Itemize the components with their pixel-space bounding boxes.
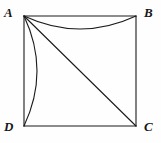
vertex-label-a: A [4,6,13,19]
vertex-label-c: C [144,120,153,133]
vertex-label-b: B [144,6,153,19]
arc-AD-path [24,16,37,126]
diagonal-AC-line [24,16,136,126]
vertex-label-d: D [4,120,14,133]
arc-AB-path [24,16,136,29]
geometry-figure: A B C D [0,0,161,143]
geometry-canvas [0,0,161,143]
